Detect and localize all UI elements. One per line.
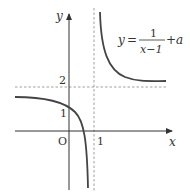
tick-label-x-1: 1 (97, 135, 104, 148)
origin-label: O (58, 135, 67, 148)
function-label: y = 1 x−1 +a (117, 27, 183, 56)
function-numerator: 1 (150, 27, 157, 40)
function-tail: +a (166, 33, 183, 47)
function-equals: = (127, 33, 137, 47)
tick-label-y-2: 2 (59, 74, 66, 87)
curve-left-branch (15, 97, 88, 188)
graph-svg: y x O 2 1 1 y = 1 x−1 +a (0, 0, 190, 194)
tick-label-y-1: 1 (60, 107, 67, 120)
y-axis-label: y (55, 9, 63, 23)
hyperbola-diagram: y x O 2 1 1 y = 1 x−1 +a (0, 0, 190, 194)
function-lhs: y (117, 33, 125, 47)
function-denominator: x−1 (140, 43, 162, 56)
x-axis-label: x (169, 135, 176, 149)
